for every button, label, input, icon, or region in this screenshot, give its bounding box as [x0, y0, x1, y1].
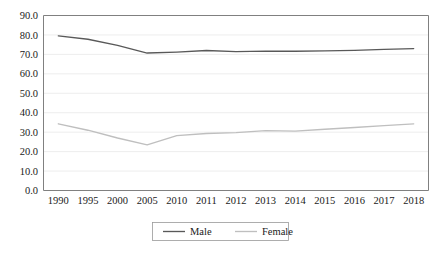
x-axis-tick-labels: 1990199520002005201020112012201320142015… — [48, 195, 424, 206]
y-axis-tick-label: 30.0 — [20, 127, 38, 138]
x-axis-tick-label: 2015 — [314, 195, 335, 206]
x-axis-tick-label: 2016 — [344, 195, 365, 206]
x-axis-tick-label: 2000 — [107, 195, 128, 206]
x-axis-tick-label: 1995 — [77, 195, 98, 206]
y-axis-tick-label: 50.0 — [20, 88, 38, 99]
x-axis-tick-label: 2010 — [166, 195, 187, 206]
x-axis-tick-label: 2012 — [226, 195, 247, 206]
y-axis-tick-label: 0.0 — [25, 185, 38, 196]
x-axis-tick-label: 2017 — [374, 195, 395, 206]
y-axis-tick-label: 60.0 — [20, 68, 38, 79]
x-axis-tick-label: 1990 — [48, 195, 69, 206]
y-axis-tick-labels: 0.010.020.030.040.050.060.070.080.090.0 — [20, 10, 38, 196]
gridlines — [44, 16, 429, 172]
data-series-lines — [58, 36, 413, 145]
series-line-female — [58, 124, 413, 145]
x-axis-tick-label: 2013 — [255, 195, 276, 206]
y-axis-tick-label: 10.0 — [20, 166, 38, 177]
x-axis-tick-label: 2014 — [285, 195, 307, 206]
y-axis-tick-label: 20.0 — [20, 146, 38, 157]
chart-canvas: 0.010.020.030.040.050.060.070.080.090.0 … — [0, 0, 441, 253]
y-axis-tick-label: 40.0 — [20, 107, 38, 118]
legend-label-male: Male — [190, 226, 212, 237]
series-line-male — [58, 36, 413, 53]
x-axis-tick-label: 2018 — [403, 195, 424, 206]
chart-legend: MaleFemale — [153, 223, 294, 241]
y-axis-tick-label: 90.0 — [20, 10, 38, 21]
y-axis-tick-label: 80.0 — [20, 30, 38, 41]
line-chart: 0.010.020.030.040.050.060.070.080.090.0 … — [0, 0, 441, 253]
legend-label-female: Female — [262, 226, 293, 237]
y-axis-tick-label: 70.0 — [20, 49, 38, 60]
x-axis-tick-label: 2005 — [137, 195, 158, 206]
x-axis-tick-label: 2011 — [196, 195, 217, 206]
